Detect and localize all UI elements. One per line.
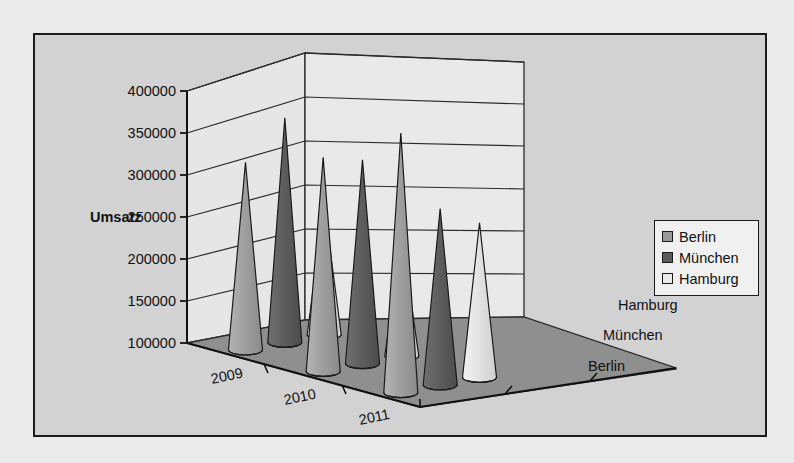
legend-swatch-berlin [662,231,673,242]
chart-legend: Berlin München Hamburg [654,220,759,296]
z-category-label: München [603,327,663,343]
legend-label: Berlin [679,229,716,245]
legend-swatch-muenchen [662,252,673,263]
y-tick-label: 100000 [128,335,176,351]
y-tick-label: 200000 [128,251,176,267]
x-category-label: 2011 [357,406,391,428]
y-axis-title: Umsatz [90,209,142,225]
legend-item-hamburg[interactable]: Hamburg [662,268,751,289]
x-category-label: 2009 [209,365,244,387]
y-tick-label: 400000 [128,83,176,99]
legend-item-muenchen[interactable]: München [662,247,751,268]
y-tick-label: 350000 [128,125,176,141]
legend-label: Hamburg [679,271,739,287]
chart-frame: 400000 350000 300000 250000 200000 15000… [33,33,767,437]
y-tick-label: 300000 [128,167,176,183]
y-tick-label: 150000 [128,293,176,309]
x-category-label: 2010 [282,386,317,408]
legend-swatch-hamburg [662,273,673,284]
y-axis [180,91,187,343]
z-category-label: Hamburg [618,297,678,313]
z-category-label: Berlin [588,358,625,374]
legend-item-berlin[interactable]: Berlin [662,226,751,247]
legend-label: München [679,250,739,266]
